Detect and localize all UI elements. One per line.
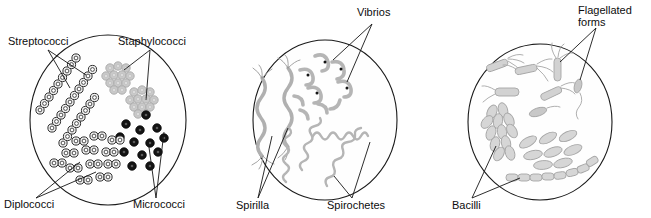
label-spirilla: Spirilla: [236, 199, 270, 211]
label-vibrios: Vibrios: [357, 6, 391, 18]
bacterial-morphology-figure: Streptococci Staphylococci Diplococci Mi…: [0, 0, 651, 218]
spiral-field: Vibrios Spirilla Spirochetes: [236, 6, 397, 211]
label-staphylococci: Staphylococci: [118, 35, 186, 47]
label-diplococci: Diplococci: [4, 198, 54, 210]
label-streptococci: Streptococci: [8, 35, 69, 47]
label-flagellated-forms-line2: forms: [578, 16, 606, 28]
label-micrococci: Micrococci: [133, 198, 185, 210]
label-flagellated-forms: Flagellated: [578, 4, 632, 16]
cocci-field: Streptococci Staphylococci Diplococci Mi…: [4, 35, 186, 210]
bacilli-field: Flagellated forms Bacilli: [452, 4, 632, 211]
label-spirochetes: Spirochetes: [327, 199, 386, 211]
microscope-field-circle-spiral: [253, 40, 397, 200]
label-bacilli: Bacilli: [452, 199, 481, 211]
microscope-fields-scene: Streptococci Staphylococci Diplococci Mi…: [0, 0, 651, 218]
